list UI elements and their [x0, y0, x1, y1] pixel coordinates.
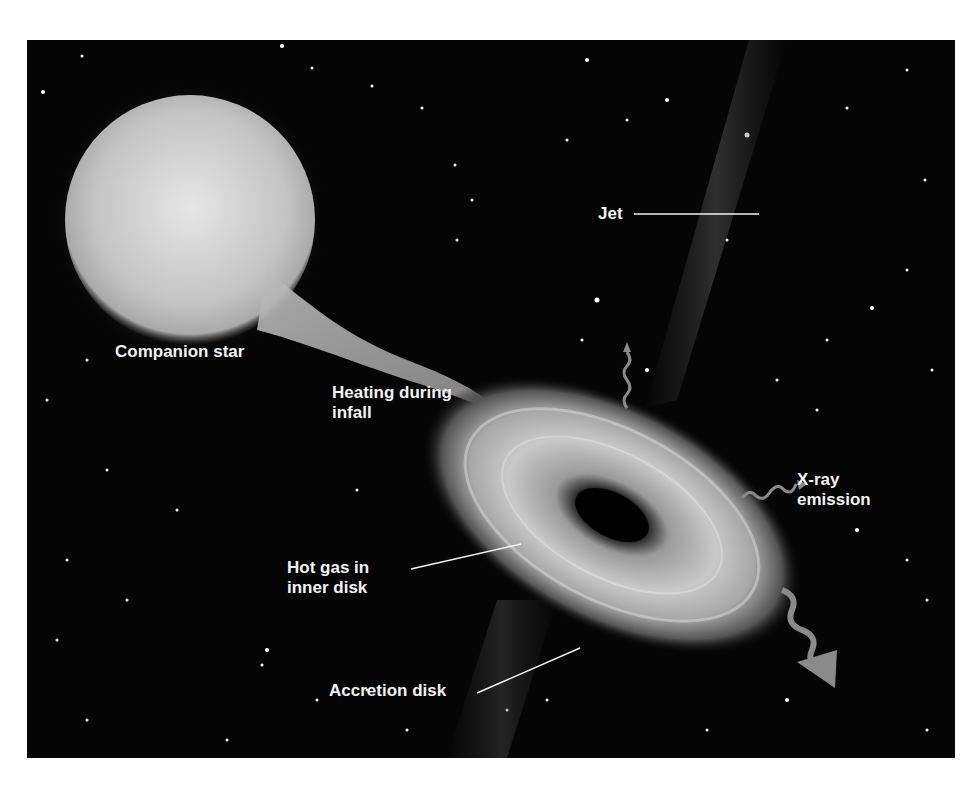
label-hot-gas-line1: Hot gas in [287, 558, 369, 578]
label-accretion-disk: Accretion disk [329, 681, 446, 701]
label-jet: Jet [598, 204, 623, 224]
space-illustration [27, 40, 955, 758]
jet-lower [447, 600, 557, 758]
label-hot-gas-line2: inner disk [287, 578, 367, 598]
label-companion-star: Companion star [115, 342, 244, 362]
figure-panel: Jet Companion star Heating during infall… [27, 40, 955, 758]
label-xray-line1: X-ray [797, 470, 840, 490]
label-heating-line2: infall [332, 403, 372, 423]
label-heating-line1: Heating during [332, 383, 452, 403]
emission-arrow [797, 650, 837, 688]
label-xray-line2: emission [797, 490, 871, 510]
jet-upper [645, 40, 787, 408]
